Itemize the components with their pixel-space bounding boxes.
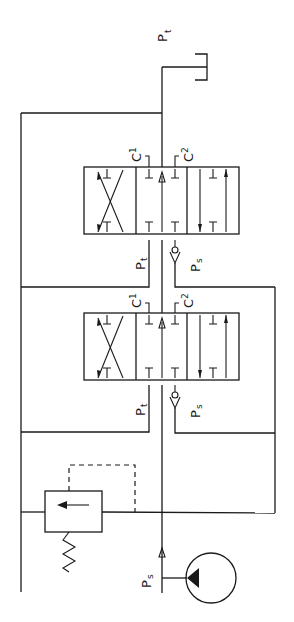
- label-valve1-c1: C 1: [128, 147, 144, 162]
- svg-text:P: P: [133, 262, 148, 270]
- svg-text:s: s: [145, 574, 155, 579]
- pump-icon: [162, 553, 236, 603]
- svg-text:P: P: [155, 34, 170, 42]
- svg-text:C: C: [181, 299, 196, 308]
- svg-text:C: C: [129, 153, 144, 162]
- svg-text:s: s: [194, 404, 204, 409]
- svg-text:t: t: [163, 29, 173, 33]
- directional-valve-1: [84, 156, 239, 234]
- label-valve2-ps: P s: [188, 404, 204, 418]
- svg-text:t: t: [139, 403, 149, 407]
- svg-text:P: P: [139, 580, 154, 588]
- svg-text:P: P: [188, 264, 203, 272]
- svg-text:t: t: [139, 257, 149, 261]
- label-valve2-c2: C 2: [180, 293, 196, 308]
- label-valve2-pt: P t: [133, 403, 149, 416]
- supply-line: [21, 512, 275, 513]
- hydraulic-circuit-diagram: P t C 1: [0, 0, 294, 622]
- svg-text:P: P: [133, 408, 148, 416]
- valve2-lower-ports: [21, 287, 275, 593]
- directional-valve-2: [84, 303, 239, 380]
- svg-text:2: 2: [180, 293, 190, 299]
- return-lines: [21, 67, 162, 592]
- label-tank-pt: P t: [155, 29, 173, 42]
- svg-text:1: 1: [128, 293, 138, 299]
- label-supply-ps: P s: [139, 574, 155, 588]
- tank-icon: [162, 54, 207, 80]
- label-valve2-c1: C 1: [128, 293, 144, 308]
- label-valve1-pt: P t: [133, 257, 149, 270]
- svg-text:s: s: [194, 258, 204, 263]
- svg-text:C: C: [129, 299, 144, 308]
- svg-text:P: P: [188, 410, 203, 418]
- label-valve1-c2: C 2: [180, 147, 196, 162]
- valve1-lower-ports: [21, 240, 275, 313]
- svg-text:2: 2: [180, 147, 190, 153]
- spring-icon: [63, 532, 75, 572]
- svg-text:C: C: [181, 153, 196, 162]
- label-valve1-ps: P s: [188, 258, 204, 272]
- relief-valve-icon: [45, 465, 135, 532]
- svg-text:1: 1: [128, 147, 138, 153]
